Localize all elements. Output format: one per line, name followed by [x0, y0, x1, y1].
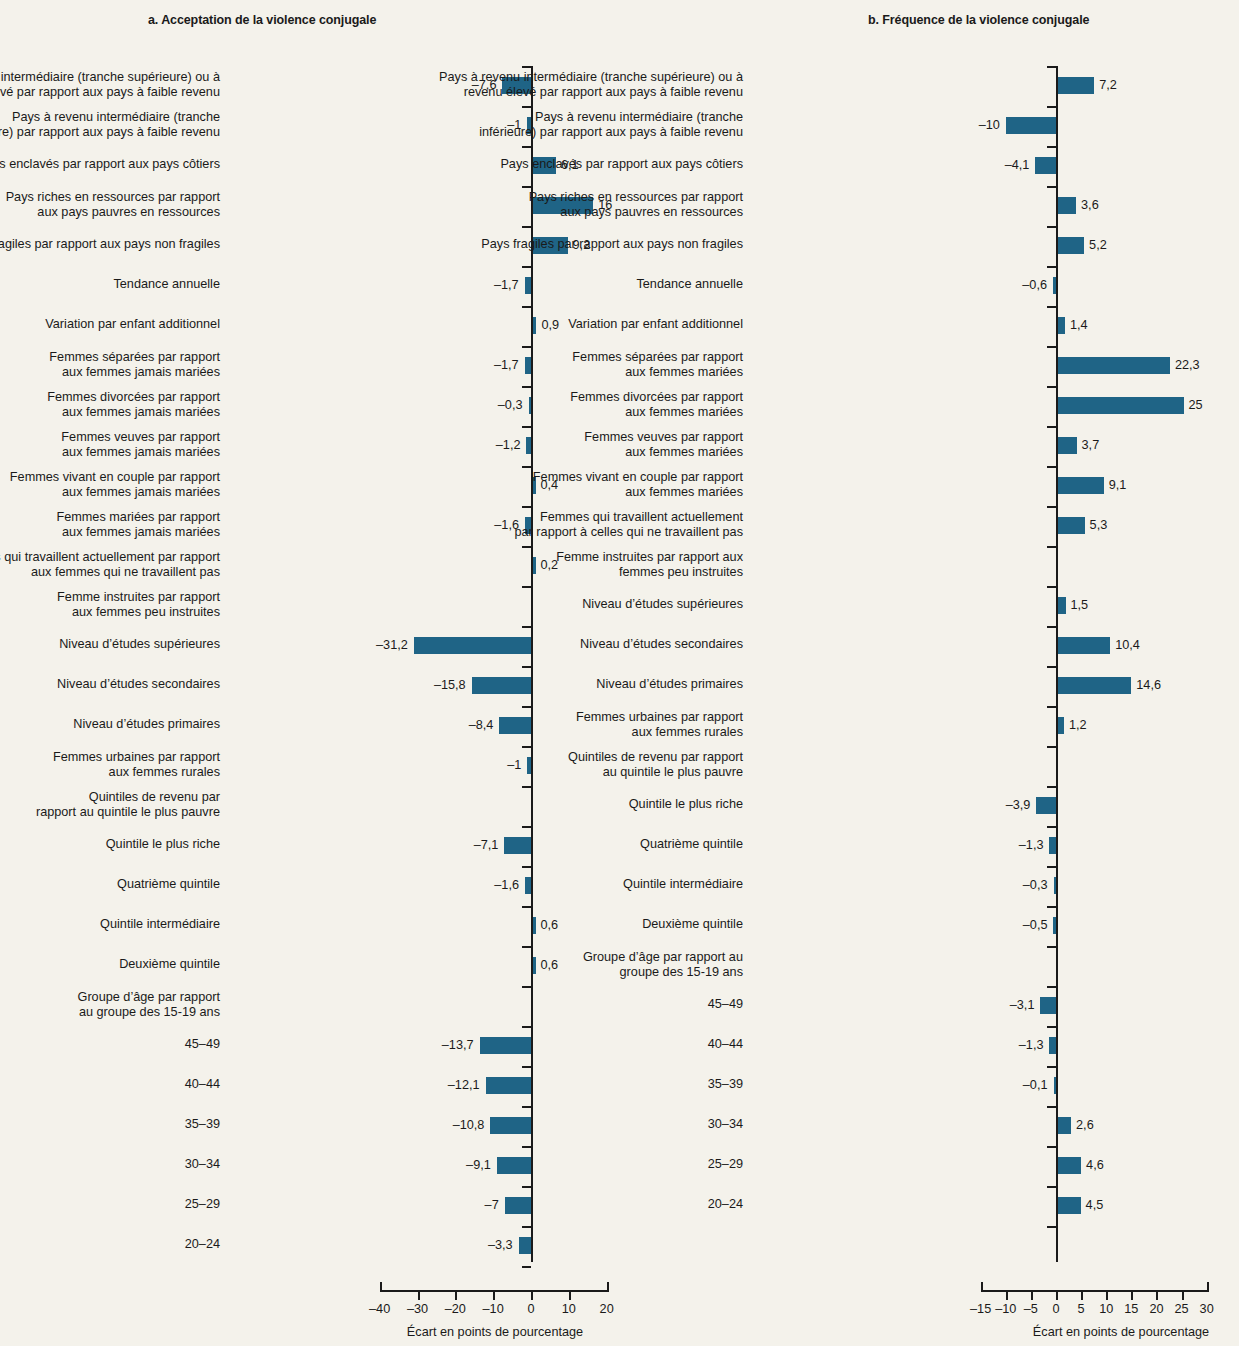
axis-tick-mark: [522, 1226, 531, 1228]
bar-category-label: 30–34: [343, 1117, 743, 1133]
x-axis-tick: [1106, 1290, 1108, 1300]
axis-tick-mark: [522, 1186, 531, 1188]
axis-tick-mark: [1047, 906, 1056, 908]
bar-value-label: 2,6: [1076, 1118, 1094, 1132]
axis-tick-mark: [1047, 866, 1056, 868]
bar-category-label: Quintile le plus riche: [0, 837, 220, 853]
bar: [1040, 997, 1056, 1014]
bar-category-label: Femmes urbaines par rapport aux femmes r…: [0, 750, 220, 781]
axis-tick-mark: [522, 1066, 531, 1068]
bar: [519, 1237, 531, 1254]
x-axis-tick: [569, 1290, 571, 1300]
bar-value-label: 4,5: [1086, 1198, 1104, 1212]
axis-tick-mark: [1047, 746, 1056, 748]
bar-category-label: Quintiles de revenu par rapport au quint…: [343, 750, 743, 781]
axis-tick-mark: [522, 466, 531, 468]
bar-category-label: Femmes vivant en couple par rapport aux …: [0, 470, 220, 501]
axis-tick-mark: [522, 946, 531, 948]
bar: [1058, 397, 1184, 414]
axis-tick-mark: [1047, 506, 1056, 508]
bar-value-label: 25: [1189, 398, 1203, 412]
x-axis-tick: [1182, 1290, 1184, 1300]
bar: [1058, 477, 1104, 494]
axis-tick-mark: [522, 786, 531, 788]
bar-category-label: Femmes vivant en couple par rapport aux …: [343, 470, 743, 501]
bar: [1058, 317, 1065, 334]
bar-category-label: Femmes qui travaillent actuellement par …: [0, 550, 220, 581]
bar-value-label: –3,9: [1006, 798, 1031, 812]
bar-category-label: Niveau d’études secondaires: [343, 637, 743, 653]
axis-tick-mark: [1047, 306, 1056, 308]
bar-category-label: 20–24: [343, 1197, 743, 1213]
bar-category-label: Quintile intermédiaire: [343, 877, 743, 893]
x-axis-tick: [380, 1282, 382, 1292]
bar-value-label: –3,1: [1010, 998, 1035, 1012]
bar-category-label: 25–29: [343, 1157, 743, 1173]
bar: [1058, 517, 1085, 534]
bar-category-label: 40–44: [343, 1037, 743, 1053]
bar-category-label: Femmes qui travaillent actuellement par …: [343, 510, 743, 541]
bar: [1058, 1117, 1071, 1134]
bar: [1053, 277, 1056, 294]
bar: [1058, 197, 1076, 214]
axis-tick-mark: [522, 266, 531, 268]
bar: [1006, 117, 1056, 134]
bar-category-label: Pays riches en ressources par rapport au…: [343, 190, 743, 221]
bar-value-label: 3,7: [1082, 438, 1100, 452]
bar: [1054, 1077, 1057, 1094]
axis-tick-mark: [1047, 546, 1056, 548]
bar-value-label: 1,5: [1071, 598, 1089, 612]
axis-tick-mark: [1047, 426, 1056, 428]
bar-category-label: Niveau d’études primaires: [343, 677, 743, 693]
bar-category-label: Deuxième quintile: [0, 957, 220, 973]
bar: [1053, 917, 1056, 934]
axis-tick-mark: [1047, 786, 1056, 788]
bar-value-label: –1,3: [1019, 838, 1044, 852]
bar: [1058, 717, 1064, 734]
axis-tick-mark: [522, 306, 531, 308]
bar-category-label: Niveau d’études secondaires: [0, 677, 220, 693]
x-axis-tick-label: 30: [1185, 1302, 1229, 1316]
bar-value-label: 14,6: [1136, 678, 1161, 692]
bar-value-label: –1,3: [1019, 1038, 1044, 1052]
bar-category-label: 25–29: [0, 1197, 220, 1213]
bar-category-label: 20–24: [0, 1237, 220, 1253]
bar-value-label: 1,2: [1069, 718, 1087, 732]
bar-value-label: 10,4: [1115, 638, 1140, 652]
axis-tick-mark: [522, 106, 531, 108]
bar: [1049, 837, 1056, 854]
bar-value-label: 4,6: [1086, 1158, 1104, 1172]
bar-category-label: Femmes divorcées par rapport aux femmes …: [343, 390, 743, 421]
axis-tick-mark: [522, 426, 531, 428]
axis-tick-mark: [1047, 666, 1056, 668]
bar: [1058, 1197, 1081, 1214]
axis-tick-mark: [522, 506, 531, 508]
x-axis-tick: [418, 1290, 420, 1300]
bar-category-label: Pays enclavés par rapport aux pays côtie…: [343, 157, 743, 173]
axis-tick-mark: [522, 1106, 531, 1108]
bar-category-label: Femmes urbaines par rapport aux femmes r…: [343, 710, 743, 741]
panel-b: b. Fréquence de la violence conjugale Pa…: [619, 0, 1239, 1346]
bar-category-label: 45–49: [0, 1037, 220, 1053]
axis-tick-mark: [1047, 146, 1056, 148]
bar-category-label: Quintile le plus riche: [343, 797, 743, 813]
bar-value-label: –0,5: [1023, 918, 1048, 932]
bar-category-label: Femmes veuves par rapport aux femmes mar…: [343, 430, 743, 461]
axis-tick-mark: [522, 746, 531, 748]
bar-category-label: 35–39: [343, 1077, 743, 1093]
axis-tick-mark: [522, 1146, 531, 1148]
bar: [1058, 237, 1084, 254]
axis-tick-mark: [1047, 986, 1056, 988]
panel-b-title: b. Fréquence de la violence conjugale: [868, 13, 1089, 27]
bar-category-label: Quatrième quintile: [0, 877, 220, 893]
axis-tick-mark: [1047, 1146, 1056, 1148]
panel-b-plot-area: Pays à revenu intermédiaire (tranche sup…: [619, 66, 1239, 1266]
axis-tick-mark: [1047, 226, 1056, 228]
x-axis-tick: [1081, 1290, 1083, 1300]
bar-category-label: Quintiles de revenu par rapport au quint…: [0, 790, 220, 821]
axis-tick-mark: [522, 546, 531, 548]
axis-tick-mark: [1047, 1026, 1056, 1028]
x-axis-tick: [607, 1282, 609, 1292]
bar-value-label: 5,2: [1089, 238, 1107, 252]
bar-value-label: –0,6: [1022, 278, 1047, 292]
